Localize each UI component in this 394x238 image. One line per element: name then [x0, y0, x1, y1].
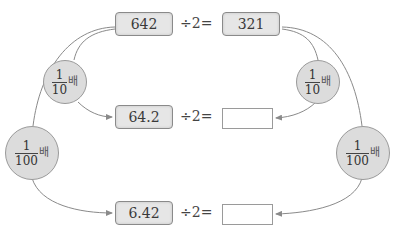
- numerator: 1: [309, 69, 317, 81]
- value-text: 642: [131, 16, 158, 32]
- unit-label: 배: [370, 143, 380, 159]
- denominator: 10: [305, 84, 320, 96]
- multiplier-circle-right-tenth: 1 10 배: [296, 60, 340, 104]
- fraction: 1 100: [346, 140, 369, 167]
- value-text: 64.2: [128, 109, 159, 125]
- numerator: 1: [354, 140, 362, 152]
- denominator: 100: [346, 155, 369, 167]
- fraction: 1 10: [52, 69, 67, 96]
- unit-label: 배: [39, 143, 49, 159]
- denominator: 100: [15, 155, 38, 167]
- result-text: 321: [238, 16, 265, 32]
- answer-input-middle[interactable]: [222, 108, 273, 129]
- value-text: 6.42: [128, 205, 159, 221]
- divide-operator: ÷2=: [180, 15, 212, 31]
- divide-operator: ÷2=: [180, 204, 212, 220]
- divide-operator: ÷2=: [180, 108, 212, 124]
- multiplier-circle-left-hundredth: 1 100 배: [5, 126, 59, 180]
- value-box-64-2: 64.2: [115, 105, 173, 129]
- unit-label: 배: [321, 72, 331, 88]
- unit-label: 배: [68, 72, 78, 88]
- value-box-6-42: 6.42: [115, 201, 173, 225]
- multiplier-circle-right-hundredth: 1 100 배: [336, 126, 390, 180]
- answer-input-bottom[interactable]: [222, 204, 273, 225]
- numerator: 1: [23, 140, 31, 152]
- value-box-642: 642: [115, 12, 173, 36]
- numerator: 1: [56, 69, 64, 81]
- multiplier-circle-left-tenth: 1 10 배: [43, 60, 87, 104]
- fraction: 1 100: [15, 140, 38, 167]
- denominator: 10: [52, 84, 67, 96]
- fraction: 1 10: [305, 69, 320, 96]
- result-box-321: 321: [222, 12, 280, 36]
